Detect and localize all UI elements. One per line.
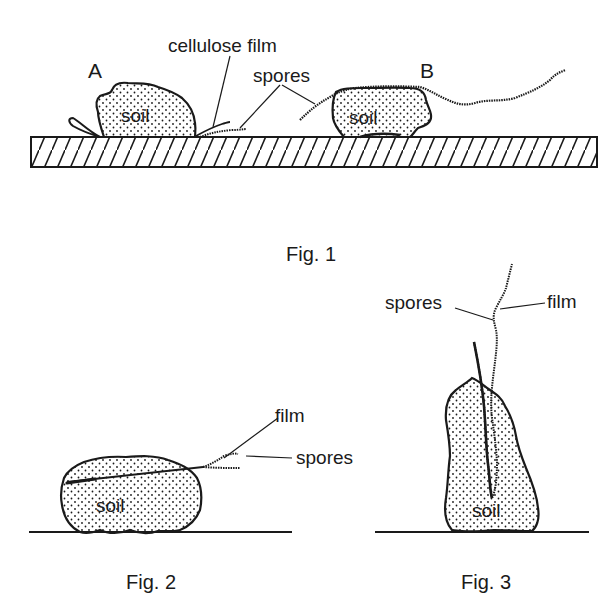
soil-clump-b [333,88,432,137]
cellulose-film-pointer [213,56,230,127]
spores-pointer-fig2 [246,456,292,458]
label-soil-b: soil [349,108,378,127]
cellulose-film-left [69,118,100,137]
film-pointer-fig3 [500,303,545,309]
label-soil-fig2: soil [96,496,125,515]
caption-fig2: Fig. 2 [126,572,176,592]
label-spores-fig2: spores [296,448,353,467]
soil-clump-fig2 [61,456,201,533]
spores-pointer-a [240,85,280,128]
spores-pointer-b [282,85,315,104]
label-cellulose-film: cellulose film [168,36,277,55]
label-film-fig2: film [275,406,305,425]
figure-2 [29,418,292,533]
diagram-canvas: A B cellulose film spores soil soil Fig.… [0,0,610,616]
diagram-svg [0,0,610,616]
caption-fig1: Fig. 1 [286,244,336,264]
label-film-fig3: film [547,292,577,311]
protruding-spores-fig2 [203,467,240,468]
film-pointer-fig2 [224,418,278,458]
label-b: B [420,60,434,81]
label-a: A [88,60,102,81]
spores-pointer-fig3 [455,308,493,320]
label-soil-fig3: soil [472,501,501,520]
figure-1 [31,56,597,167]
label-spores-fig1: spores [253,66,310,85]
protruding-film-fig2 [203,454,238,467]
hatched-substrate [31,137,597,167]
label-spores-fig3: spores [385,293,442,312]
caption-fig3: Fig. 3 [461,572,511,592]
label-soil-a: soil [121,106,150,125]
